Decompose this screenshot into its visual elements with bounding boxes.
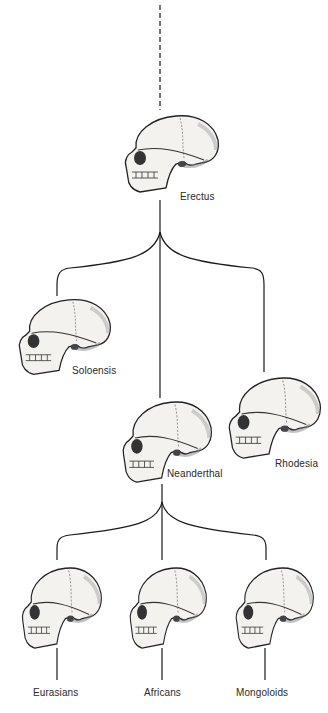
skull-mongoloids-icon — [236, 568, 313, 648]
branch-soloensis — [57, 232, 160, 296]
branch-rhodesia — [160, 232, 264, 372]
label-soloensis: Soloensis — [72, 365, 116, 376]
lineage-tree — [0, 0, 328, 713]
branch-mongoloids — [162, 502, 266, 560]
skull-erectus-icon — [125, 116, 218, 192]
skull-eurasians-icon — [22, 568, 101, 648]
skull-rhodesia-icon — [229, 378, 320, 458]
skull-africans-icon — [130, 568, 206, 648]
skull-soloensis-icon — [19, 300, 110, 375]
label-mongoloids: Mongoloids — [236, 687, 288, 698]
label-erectus: Erectus — [180, 191, 215, 202]
label-rhodesia: Rhodesia — [275, 458, 318, 469]
label-eurasians: Eurasians — [33, 687, 78, 698]
label-africans: Africans — [144, 687, 181, 698]
branch-eurasians — [57, 502, 162, 560]
label-neanderthal: Neanderthal — [167, 468, 223, 479]
